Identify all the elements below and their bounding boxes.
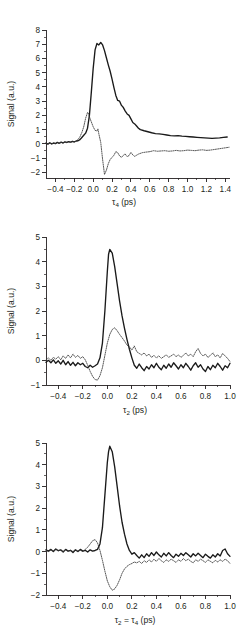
y-tick-label: 2 — [35, 307, 40, 316]
panel-bottom-xticklabels: −0.4−0.20.00.20.40.60.81.0 — [50, 602, 236, 611]
x-tick-label: −0.4 — [50, 602, 67, 611]
panel-top-xticklabels: −0.4−0.20.00.20.40.60.81.01.21.4 — [47, 185, 231, 194]
x-tick-label: −0.2 — [66, 185, 83, 194]
panel-bottom-svg: −2−1012345 −0.4−0.20.00.20.40.60.81.0 Si… — [0, 431, 242, 644]
panel-top-series-solid — [46, 43, 227, 145]
panel-bottom: −2−1012345 −0.4−0.20.00.20.40.60.81.0 Si… — [0, 431, 242, 644]
y-tick-label: −1 — [31, 569, 41, 578]
x-tick-label: 0.4 — [125, 185, 137, 194]
panel-middle-series-solid — [46, 249, 230, 371]
panel-top-svg: −2−1012345678 −0.4−0.20.00.20.40.60.81.0… — [0, 0, 242, 225]
panel-bottom-series-solid — [46, 446, 230, 558]
panel-middle-xlabel: τ2 (ps) — [123, 405, 147, 416]
x-tick-label: 1.2 — [201, 185, 213, 194]
y-tick-label: −1 — [31, 381, 41, 390]
panel-top-xlabel-unit: (ps) — [121, 197, 136, 207]
y-tick-label: 2 — [35, 111, 40, 120]
panel-top-yticklabels: −2−1012345678 — [31, 26, 41, 177]
x-tick-label: 1.0 — [224, 392, 236, 401]
svg-text:τ2 = τ4 (ps): τ2 = τ4 (ps) — [115, 615, 156, 626]
y-tick-label: −2 — [31, 591, 41, 600]
x-tick-label: −0.2 — [75, 602, 92, 611]
y-tick-label: 5 — [35, 69, 40, 78]
panel-top-xticks — [55, 178, 225, 182]
panel-top-series-dotted — [46, 113, 229, 175]
x-tick-label: 0.6 — [175, 392, 187, 401]
panel-bottom-series-dotted — [46, 540, 230, 591]
panel-middle-xticks — [58, 385, 230, 389]
x-tick-label: 1.0 — [224, 602, 236, 611]
panel-top-xlabel: τ4 (ps) — [112, 197, 136, 208]
figure-three-panel-signal-plots: −2−1012345678 −0.4−0.20.00.20.40.60.81.0… — [0, 0, 242, 644]
panel-middle: −1012345 −0.4−0.20.00.20.40.60.81.0 Sign… — [0, 225, 242, 431]
panel-bottom-axes — [46, 443, 230, 595]
panel-bottom-xlabel: τ2 = τ4 (ps) — [115, 615, 156, 626]
y-tick-label: 7 — [35, 40, 40, 49]
svg-text:τ4 (ps): τ4 (ps) — [112, 197, 136, 208]
y-tick-label: −1 — [31, 154, 41, 163]
panel-middle-series-dotted — [46, 328, 230, 380]
x-tick-label: −0.4 — [47, 185, 64, 194]
x-tick-label: 1.4 — [220, 185, 232, 194]
panel-bottom-ylabel: Signal (a.u.) — [6, 496, 16, 542]
panel-bottom-yticklabels: −2−1012345 — [31, 439, 41, 600]
y-tick-label: 6 — [35, 54, 40, 63]
x-tick-label: 1.0 — [182, 185, 194, 194]
y-tick-label: 4 — [35, 461, 40, 470]
panel-top: −2−1012345678 −0.4−0.20.00.20.40.60.81.0… — [0, 0, 242, 225]
y-tick-label: 0 — [35, 356, 40, 365]
panel-middle-xticklabels: −0.4−0.20.00.20.40.60.81.0 — [50, 392, 236, 401]
x-tick-label: 0.0 — [102, 602, 114, 611]
y-tick-label: 1 — [35, 526, 40, 535]
y-tick-label: 3 — [35, 282, 40, 291]
panel-bottom-xticks — [58, 595, 230, 599]
panel-middle-yticks — [42, 237, 46, 385]
y-tick-label: 5 — [35, 439, 40, 448]
x-tick-label: 0.4 — [151, 602, 163, 611]
y-tick-label: 1 — [35, 332, 40, 341]
x-tick-label: 0.0 — [87, 185, 99, 194]
panel-bottom-xlabel-unit: (ps) — [141, 615, 156, 625]
x-tick-label: −0.2 — [75, 392, 92, 401]
panel-middle-yticklabels: −1012345 — [31, 233, 41, 390]
panel-middle-ylabel: Signal (a.u.) — [6, 288, 16, 334]
panel-bottom-yticks — [42, 443, 46, 595]
y-tick-label: 4 — [35, 258, 40, 267]
panel-top-ylabel: Signal (a.u.) — [6, 81, 16, 127]
x-tick-label: 0.2 — [126, 392, 138, 401]
x-tick-label: 0.0 — [102, 392, 114, 401]
x-tick-label: 0.8 — [200, 392, 212, 401]
y-tick-label: 1 — [35, 126, 40, 135]
x-tick-label: 0.2 — [106, 185, 118, 194]
y-tick-label: 4 — [35, 83, 40, 92]
x-tick-label: 0.8 — [163, 185, 175, 194]
y-tick-label: 0 — [35, 140, 40, 149]
y-tick-label: 8 — [35, 26, 40, 35]
y-tick-label: 3 — [35, 97, 40, 106]
svg-text:τ2 (ps): τ2 (ps) — [123, 405, 147, 416]
panel-middle-svg: −1012345 −0.4−0.20.00.20.40.60.81.0 Sign… — [0, 225, 242, 431]
y-tick-label: 5 — [35, 233, 40, 242]
x-tick-label: 0.2 — [126, 602, 138, 611]
y-tick-label: 2 — [35, 504, 40, 513]
y-tick-label: −2 — [31, 168, 41, 177]
x-tick-label: −0.4 — [50, 392, 67, 401]
x-tick-label: 0.4 — [151, 392, 163, 401]
panel-top-yticks — [42, 30, 46, 172]
x-tick-label: 0.6 — [144, 185, 156, 194]
x-tick-label: 0.6 — [175, 602, 187, 611]
x-tick-label: 0.8 — [200, 602, 212, 611]
panel-middle-xlabel-unit: (ps) — [132, 405, 147, 415]
y-tick-label: 3 — [35, 482, 40, 491]
y-tick-label: 0 — [35, 548, 40, 557]
panel-top-axes — [46, 30, 230, 178]
